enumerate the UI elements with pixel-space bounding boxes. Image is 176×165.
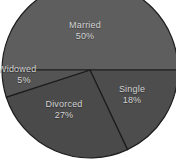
pie-slice-married[interactable] [2, 0, 176, 70]
pie-chart-canvas [0, 0, 176, 165]
pie-chart: Married 50% Single 18% Divorced 27% Wido… [0, 0, 176, 165]
pie-slices [2, 0, 176, 158]
